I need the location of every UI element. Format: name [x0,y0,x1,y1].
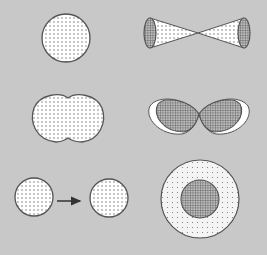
transition-circles [15,178,128,217]
double-cone-shape [144,18,250,48]
sphere-shape [42,14,90,62]
ring-shape [161,160,239,238]
circle-after [90,179,128,217]
circle-before [15,178,53,216]
peanut-shape [32,95,103,142]
diagram-canvas [0,0,267,255]
figure-eight-shape [149,99,250,134]
